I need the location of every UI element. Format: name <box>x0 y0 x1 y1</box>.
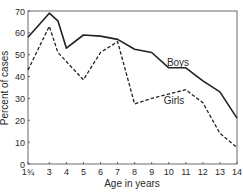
x-tick-label: 10 <box>164 167 174 177</box>
series-labels: BoysGirls <box>164 57 189 106</box>
x-tick-label: 14 <box>232 167 242 177</box>
x-tick-label: 8 <box>132 167 137 177</box>
y-tick-label: 70 <box>15 7 25 17</box>
y-tick-label: 60 <box>15 28 25 38</box>
x-axis-label: Age in years <box>104 178 160 189</box>
x-tick-label: 11 <box>181 167 190 177</box>
series-label-boys: Boys <box>167 57 189 68</box>
y-tick-label: 40 <box>15 72 25 82</box>
x-tick-label: 5 <box>81 167 86 177</box>
x-tick-label: 13 <box>215 167 225 177</box>
x-tick-label: 12 <box>198 167 208 177</box>
x-tick-label: 7 <box>115 167 120 177</box>
y-tick-label: 30 <box>15 94 25 104</box>
series-line-girls <box>28 26 237 147</box>
series-line-boys <box>28 13 237 118</box>
plot-frame <box>28 11 237 164</box>
x-tick-label: 1¾ <box>22 167 35 177</box>
line-chart: 010203040506070 1¾34567891011121314 Boys… <box>0 0 243 193</box>
y-tick-label: 50 <box>15 50 25 60</box>
x-tick-label: 9 <box>149 167 154 177</box>
x-tick-label: 3 <box>47 167 52 177</box>
y-tick-label: 10 <box>15 138 25 148</box>
x-tick-label: 6 <box>98 167 103 177</box>
y-tick-label: 20 <box>15 116 25 126</box>
series-label-girls: Girls <box>164 95 185 106</box>
series-lines <box>28 13 237 147</box>
y-axis-label: Percent of cases <box>0 51 10 125</box>
x-tick-label: 4 <box>64 167 69 177</box>
